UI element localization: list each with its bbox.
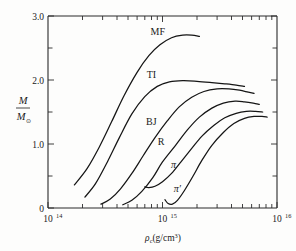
y-axis-tick-labels: 3.0 2.0 1.0 0 xyxy=(32,12,44,214)
y-tick-label-0: 0 xyxy=(39,204,44,214)
x-axis-title-units-close: ) xyxy=(178,233,181,244)
x-tick-label-1e15-exponent: 15 xyxy=(171,212,177,219)
y-axis-title-denominator-subscript: ⊙ xyxy=(26,118,31,124)
curve-pi xyxy=(145,111,263,187)
x-tick-label-1e14: 10 14 xyxy=(43,212,63,224)
x-tick-label-1e15-mantissa: 10 xyxy=(158,214,168,224)
curve-label-TI: TI xyxy=(147,69,156,80)
x-tick-label-1e14-mantissa: 10 xyxy=(43,214,53,224)
y-axis-title-denominator: M xyxy=(16,111,27,122)
x-axis-title: ρc(g/cm3) xyxy=(144,232,181,244)
curve-label-BJ: BJ xyxy=(146,116,157,127)
x-axis-title-units: (g/cm xyxy=(152,233,175,244)
x-axis-tick-labels: 10 14 10 15 10 16 xyxy=(43,212,291,224)
curve-label-MF: MF xyxy=(151,26,166,37)
y-tick-label-1: 1.0 xyxy=(32,140,44,150)
x-tick-label-1e16-mantissa: 10 xyxy=(272,214,282,224)
y-tick-label-3: 3.0 xyxy=(32,12,44,22)
curve-label-R: R xyxy=(158,136,165,147)
y-axis-title-numerator: M xyxy=(18,95,29,106)
y-tick-label-2: 2.0 xyxy=(32,76,44,86)
curve-R xyxy=(123,101,259,205)
x-tick-label-1e14-exponent: 14 xyxy=(56,212,63,219)
figure-container: 3.0 2.0 1.0 0 M M ⊙ xyxy=(0,0,296,251)
x-tick-label-1e15: 10 15 xyxy=(158,212,177,224)
x-axis-title-text: ρc(g/cm3) xyxy=(144,232,181,244)
data-curves xyxy=(74,35,267,205)
x-tick-label-1e16-exponent: 16 xyxy=(285,212,291,219)
chart-canvas: 3.0 2.0 1.0 0 M M ⊙ xyxy=(0,0,296,251)
x-tick-label-1e16: 10 16 xyxy=(272,212,291,224)
curve-label-pi-prime: π′ xyxy=(174,183,182,194)
y-axis-title: M M ⊙ xyxy=(16,95,31,124)
